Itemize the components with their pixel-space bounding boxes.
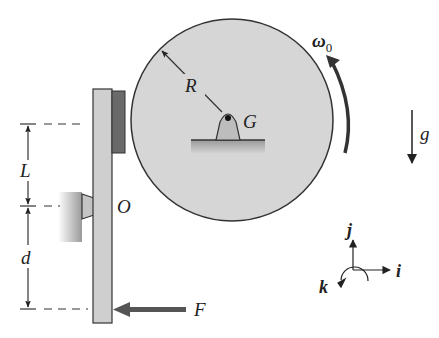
gravity-label: g <box>420 123 430 144</box>
radius-label: R <box>184 75 197 96</box>
length-l-label: L <box>19 160 31 181</box>
g-label: G <box>243 111 257 132</box>
center-of-mass-point <box>225 115 231 121</box>
diagram-canvas: R G ω0 g O L d F <box>0 0 439 338</box>
axis-i-label: i <box>396 261 401 281</box>
force-label: F <box>193 299 206 320</box>
brake-arm <box>93 89 112 323</box>
coordinate-frame <box>338 240 390 287</box>
force-arrow <box>113 302 186 317</box>
axis-j-label: j <box>344 220 353 240</box>
length-d-label: d <box>21 247 31 268</box>
wall <box>58 192 82 242</box>
axis-k-label: k <box>319 277 328 297</box>
pivot-label: O <box>117 196 131 217</box>
brake-pad <box>112 91 125 153</box>
omega-label: ω0 <box>312 30 332 55</box>
